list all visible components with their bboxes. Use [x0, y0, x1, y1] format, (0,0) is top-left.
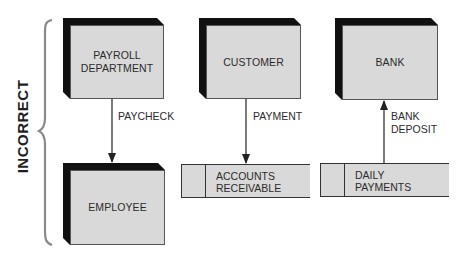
flow-label-line: DEPOSIT: [391, 123, 437, 136]
flow-label-line: BANK: [391, 110, 437, 123]
arrowhead-icon: [108, 153, 116, 163]
flow-label-payment: PAYMENT: [253, 110, 302, 123]
arrowhead-icon: [242, 154, 250, 164]
arrowhead-icon: [380, 100, 388, 110]
flow-label-paycheck: PAYCHECK: [118, 110, 174, 123]
flow-label-bank-deposit: BANK DEPOSIT: [391, 110, 437, 136]
